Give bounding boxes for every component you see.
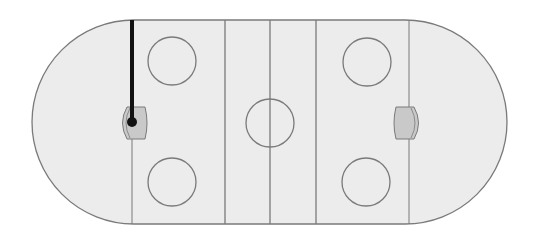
puck-dot <box>127 117 137 127</box>
rink-canvas <box>0 0 536 234</box>
hockey-rink-diagram <box>0 0 536 234</box>
right-goal-crease <box>394 107 419 139</box>
